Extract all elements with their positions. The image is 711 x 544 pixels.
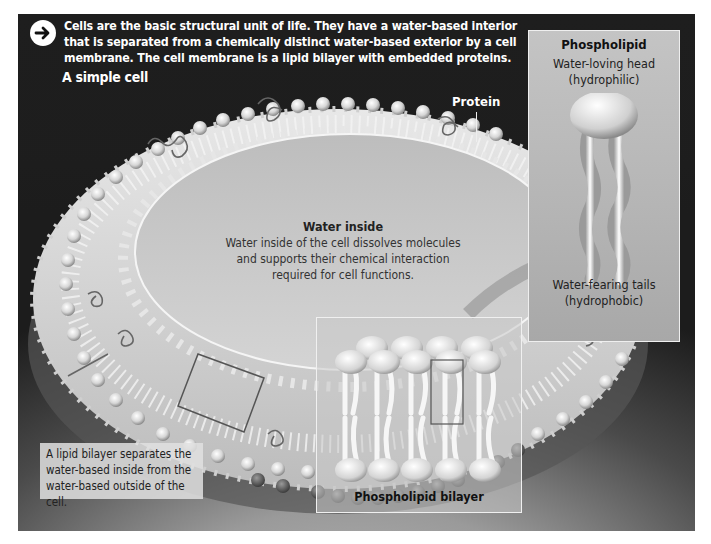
diagram-frame: Cells are the basic structural unit of l…	[18, 14, 695, 531]
protein-leader-line	[476, 112, 477, 142]
hydrophilic-head-label: Water-loving head (hydrophilic)	[529, 56, 679, 88]
intro-text: Cells are the basic structural unit of l…	[64, 18, 540, 66]
phospholipid-panel: Phospholipid Water-loving head (hydrophi…	[528, 30, 680, 342]
head-sub-text: (hydrophilic)	[529, 72, 679, 88]
water-inside-annotation: Water inside Water inside of the cell di…	[218, 219, 468, 283]
phospholipid-heading: Phospholipid	[529, 37, 679, 52]
protein-label: Protein	[452, 94, 500, 109]
tail-sub-text: (hydrophobic)	[529, 293, 679, 309]
water-inside-body: Water inside of the cell dissolves molec…	[218, 235, 468, 283]
head-label-text: Water-loving head	[529, 56, 679, 72]
intro-block: Cells are the basic structural unit of l…	[30, 18, 540, 66]
tail-label-text: Water-fearing tails	[529, 277, 679, 293]
phospholipid-bilayer-panel: Phospholipid bilayer	[316, 317, 522, 513]
arrow-right-circle-icon	[30, 20, 56, 46]
bilayer-illustration	[317, 318, 521, 488]
lipid-bilayer-caption-box: A lipid bilayer separates the water-base…	[40, 443, 203, 499]
bilayer-caption: Phospholipid bilayer	[317, 489, 521, 504]
caption-text: A lipid bilayer separates the water-base…	[46, 446, 197, 510]
hydrophobic-tails-label: Water-fearing tails (hydrophobic)	[529, 277, 679, 309]
simple-cell-label: A simple cell	[62, 69, 148, 85]
water-inside-heading: Water inside	[218, 219, 468, 234]
phospholipid-molecule-icon	[529, 93, 679, 293]
